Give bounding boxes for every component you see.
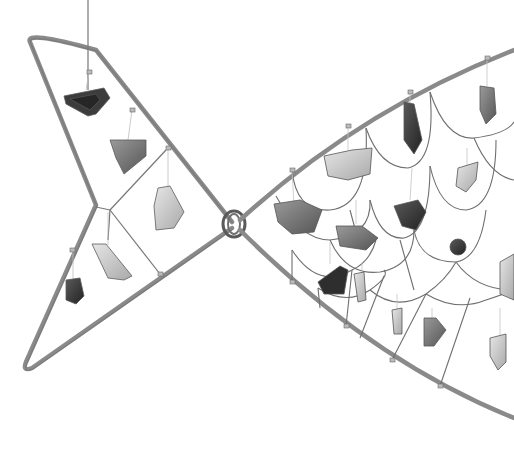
fish-sculpture-photo: Wire fish sculpture with hanging glass a… [0,0,514,460]
tail-frame [25,38,232,370]
body-frame [240,50,514,418]
tail-inner-wires [88,0,166,274]
body-fragments [274,86,514,370]
fish-sculpture-drawing [0,0,514,460]
scale-mesh [276,92,514,386]
